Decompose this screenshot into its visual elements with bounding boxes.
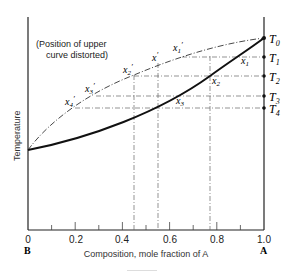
label-x4-prime: x4′ [64, 95, 75, 109]
y-axis-label: Temperature [12, 110, 22, 161]
x-tick-labels: 0 0.2 0.4 0.6 0.8 1.0 [25, 234, 271, 245]
svg-text:0.2: 0.2 [69, 234, 83, 245]
svg-text:0: 0 [25, 234, 31, 245]
label-x2-prime: x2′ [122, 63, 133, 77]
svg-text:0.8: 0.8 [210, 234, 224, 245]
label-x-prime: x′ [151, 51, 158, 63]
svg-text:0.4: 0.4 [115, 234, 129, 245]
caption-remnant [127, 270, 157, 271]
label-x2: x2 [211, 75, 220, 88]
annotation-line1: (Position of upper [36, 39, 107, 49]
label-T2: T2 [269, 70, 280, 86]
label-x1: x1 [240, 55, 249, 68]
component-B-label: B [24, 245, 31, 256]
annotation-line2: curve distorted) [46, 50, 108, 60]
x-ticks [52, 222, 241, 230]
svg-text:1.0: 1.0 [257, 234, 271, 245]
phase-diagram: T0 T1 T2 T3 T4 x1′ x′ x2′ x3′ x4′ x1 x2 … [0, 0, 292, 274]
composition-guides [134, 56, 210, 230]
label-x1-prime: x1′ [172, 41, 183, 55]
label-T0: T0 [269, 32, 280, 48]
x-axis-label: Composition, mole fraction of A [84, 249, 209, 259]
component-A-label: A [260, 245, 268, 256]
label-x3-prime: x3′ [84, 82, 95, 96]
label-T1: T1 [269, 51, 280, 67]
label-x3: x3 [175, 95, 184, 108]
svg-text:0.6: 0.6 [163, 234, 177, 245]
